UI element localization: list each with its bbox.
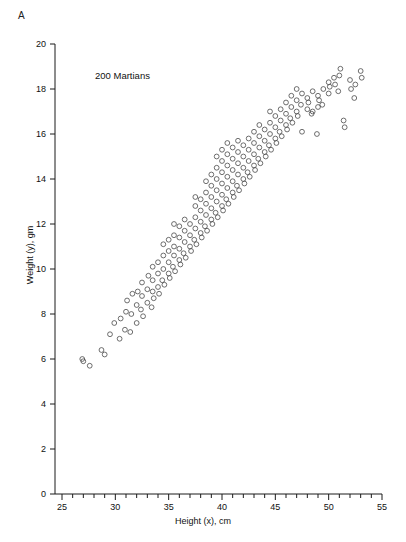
data-point <box>256 156 261 161</box>
data-point <box>300 129 305 134</box>
data-point <box>315 132 320 137</box>
y-tick-label: 4 <box>41 399 46 409</box>
data-point <box>257 145 262 150</box>
data-point <box>306 100 311 105</box>
data-point <box>192 237 197 242</box>
data-point <box>193 226 198 231</box>
data-point <box>235 183 240 188</box>
scatter-figure: A 200 Martians Weight (y), gm Height (x)… <box>0 0 406 542</box>
data-point <box>166 271 171 276</box>
data-point <box>181 251 186 256</box>
data-point <box>141 314 146 319</box>
data-point <box>150 278 155 283</box>
data-point <box>258 161 263 166</box>
data-point <box>277 129 282 134</box>
data-point <box>305 96 310 101</box>
data-point <box>278 118 283 123</box>
data-point <box>294 98 299 103</box>
data-point <box>198 197 203 202</box>
data-point <box>220 192 225 197</box>
y-tick-label: 8 <box>41 309 46 319</box>
data-point <box>204 179 209 184</box>
data-point <box>87 363 92 368</box>
data-point <box>209 206 214 211</box>
data-point <box>263 154 268 159</box>
data-point <box>285 127 290 132</box>
data-point <box>262 150 267 155</box>
plot-area: 02468101214161820 25303540455055 <box>0 0 406 542</box>
data-point <box>268 120 273 125</box>
data-point <box>220 159 225 164</box>
data-point <box>199 235 204 240</box>
data-point <box>171 264 176 269</box>
data-point <box>150 264 155 269</box>
data-point <box>140 280 145 285</box>
data-point <box>231 195 236 200</box>
data-point <box>177 224 182 229</box>
data-point <box>178 262 183 267</box>
data-point <box>310 89 315 94</box>
data-point <box>129 312 134 317</box>
data-point <box>220 147 225 152</box>
data-point <box>326 80 331 85</box>
data-point <box>193 215 198 220</box>
data-point <box>316 93 321 98</box>
data-point <box>321 87 326 92</box>
data-point <box>288 116 293 121</box>
data-point <box>188 244 193 249</box>
data-point <box>230 179 235 184</box>
data-point <box>161 253 166 258</box>
data-point <box>279 134 284 139</box>
data-point <box>241 177 246 182</box>
data-point <box>242 181 247 186</box>
data-point <box>289 93 294 98</box>
data-point <box>214 154 219 159</box>
data-point <box>257 134 262 139</box>
data-point <box>267 143 272 148</box>
data-point <box>125 298 130 303</box>
data-point <box>225 163 230 168</box>
data-point <box>225 152 230 157</box>
data-point <box>172 244 177 249</box>
data-point <box>268 132 273 137</box>
data-point <box>252 129 257 134</box>
data-point <box>246 136 251 141</box>
data-point <box>209 195 214 200</box>
data-point <box>145 300 150 305</box>
data-point <box>157 291 162 296</box>
data-point <box>146 273 151 278</box>
data-point <box>150 289 155 294</box>
data-point <box>300 91 305 96</box>
data-point <box>182 217 187 222</box>
data-point <box>349 87 354 92</box>
data-point <box>236 150 241 155</box>
data-point <box>252 152 257 157</box>
panel-label: A <box>18 10 25 21</box>
data-point <box>210 222 215 227</box>
data-point <box>262 138 267 143</box>
data-point <box>209 183 214 188</box>
data-point <box>333 82 338 87</box>
data-point <box>353 82 358 87</box>
data-point <box>172 233 177 238</box>
data-point <box>204 201 209 206</box>
data-point <box>198 219 203 224</box>
y-tick-group: 02468101214161820 <box>36 39 55 499</box>
data-point <box>151 296 156 301</box>
data-point <box>123 327 128 332</box>
data-point <box>135 289 140 294</box>
data-point <box>336 89 341 94</box>
data-point <box>290 120 295 125</box>
data-point <box>209 217 214 222</box>
axis-group <box>55 44 382 494</box>
data-point <box>284 123 289 128</box>
data-point <box>352 96 357 101</box>
data-point <box>182 240 187 245</box>
y-tick-label: 2 <box>41 444 46 454</box>
y-tick-label: 14 <box>36 174 46 184</box>
data-point <box>134 303 139 308</box>
x-tick-group: 25303540455055 <box>57 494 387 512</box>
x-tick-label: 45 <box>270 502 280 512</box>
data-point <box>118 316 123 321</box>
y-tick-label: 18 <box>36 84 46 94</box>
